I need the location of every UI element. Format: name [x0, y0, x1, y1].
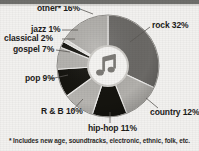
label-gospel: gospel 7% [13, 45, 54, 54]
label-classical: classical 2% [4, 34, 53, 43]
label-pop: pop 9% [25, 74, 55, 83]
top-rule-shadow [0, 4, 199, 6]
label-country: country 12% [150, 108, 199, 117]
label-rock: rock 32% [152, 21, 189, 30]
label-hiphop: hip-hop 11% [88, 124, 137, 133]
leader-gospel [56, 50, 70, 52]
leader-other [80, 9, 93, 14]
label-rnb: R & B 10% [41, 107, 83, 116]
leader-rock [130, 27, 150, 42]
chart-footnote: * Includes new age, soundtracks, electro… [0, 137, 199, 144]
